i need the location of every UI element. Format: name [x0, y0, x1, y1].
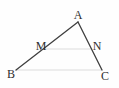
segment-BA — [16, 22, 78, 70]
vertex-label-M: M — [36, 39, 47, 53]
triangle-figure: ABCMN — [0, 0, 119, 88]
vertex-label-A: A — [74, 8, 83, 22]
vertex-label-N: N — [93, 39, 102, 53]
vertex-label-B: B — [7, 67, 15, 81]
vertex-label-C: C — [101, 69, 109, 83]
geometry-diagram: ABCMN — [0, 0, 119, 88]
